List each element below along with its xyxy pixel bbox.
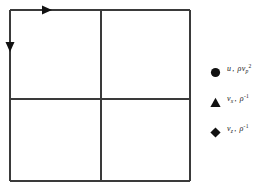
grid-lines (10, 10, 190, 181)
legend-label-vz: vz, ρ-1 (227, 123, 249, 134)
filled-diamond-marker (209, 126, 222, 139)
legend-label-u: u, ρvp2 (227, 63, 251, 74)
legend-quantity-sup-vz: -1 (244, 123, 249, 129)
legend-label-vx: vx, ρ-1 (227, 93, 249, 104)
filled-circle-marker (209, 66, 222, 79)
left-edge-arrow-icon (6, 42, 15, 52)
legend-item-u: u, ρvp2 (206, 62, 261, 92)
legend-quantity-sup-u: 2 (248, 63, 251, 69)
legend-quantity-sup-vx: -1 (244, 93, 249, 99)
legend-item-vx: vx, ρ-1 (206, 92, 261, 122)
legend: u, ρvp2 vx, ρ-1 vz, ρ-1 (206, 62, 261, 152)
direction-arrows (6, 6, 53, 53)
legend-item-vz: vz, ρ-1 (206, 122, 261, 152)
figure-container: u, ρvp2 vx, ρ-1 vz, ρ-1 (0, 0, 261, 191)
top-edge-arrow-icon (42, 6, 52, 15)
filled-triangle-marker (209, 96, 222, 109)
